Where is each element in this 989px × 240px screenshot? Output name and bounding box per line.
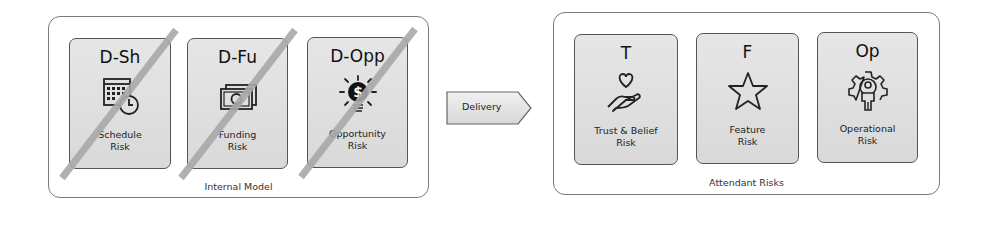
card-opportunity-risk: D-Opp $ OpportunityRisk xyxy=(307,37,408,168)
banknote-icon xyxy=(216,75,260,119)
lightbulb-dollar-icon: $ xyxy=(336,74,380,118)
card-code: T xyxy=(575,43,677,63)
card-code: D-Opp xyxy=(308,46,407,66)
card-feature-risk: F FeatureRisk xyxy=(696,33,799,164)
svg-text:$: $ xyxy=(353,84,363,100)
card-label: ScheduleRisk xyxy=(70,129,170,153)
card-trust-belief-risk: T Trust & BeliefRisk xyxy=(574,34,678,165)
calendar-clock-icon xyxy=(98,75,142,119)
card-schedule-risk: D-Sh ScheduleRisk xyxy=(69,38,171,169)
card-code: D-Fu xyxy=(188,47,287,67)
card-label: FeatureRisk xyxy=(697,124,798,148)
group-caption: Attendant Risks xyxy=(554,177,939,188)
gear-person-icon xyxy=(846,69,890,113)
card-code: Op xyxy=(818,41,917,61)
card-funding-risk: D-Fu FundingRisk xyxy=(187,38,288,169)
card-label: FundingRisk xyxy=(188,129,287,153)
card-code: F xyxy=(697,42,798,62)
card-code: D-Sh xyxy=(70,47,170,67)
star-icon xyxy=(726,70,770,114)
card-label: OperationalRisk xyxy=(818,123,917,147)
delivery-label: Delivery xyxy=(462,101,501,112)
card-label: Trust & BeliefRisk xyxy=(575,125,677,149)
hand-heart-icon xyxy=(604,71,648,115)
group-caption: Internal Model xyxy=(49,181,428,192)
card-label: OpportunityRisk xyxy=(308,128,407,152)
card-operational-risk: Op OperationalRisk xyxy=(817,32,918,163)
